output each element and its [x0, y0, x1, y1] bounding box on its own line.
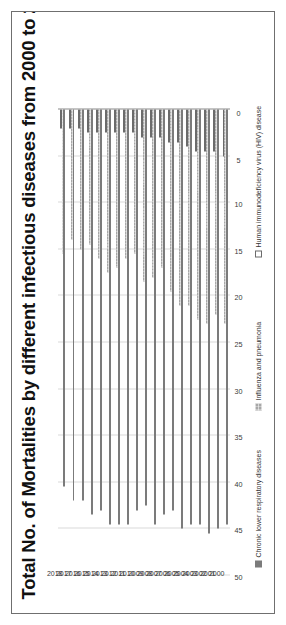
bar-2006-series-0: [172, 109, 174, 510]
bar-2014-series-0: [100, 109, 102, 510]
rotated-figure-wrapper: Total No. of Mortalities by different in…: [12, 12, 274, 613]
value-tick-30: 30: [235, 386, 243, 395]
bar-2018-series-0: [63, 109, 65, 486]
bar-group-2002: [203, 109, 212, 575]
bar-2017-series-0: [73, 109, 75, 500]
value-tick-20: 20: [235, 293, 243, 302]
value-tick-45: 45: [235, 526, 243, 535]
bar-group-2003: [194, 109, 203, 575]
bar-group-2011: [121, 109, 130, 575]
chart-canvas: Total No. of Mortalities by different in…: [12, 12, 274, 613]
category-axis: 2018201720162015201420132012201120102009…: [58, 577, 230, 611]
bar-group-2006: [167, 109, 176, 575]
legend-swatch-icon-1: [255, 403, 262, 410]
legend-swatch-icon-2: [255, 250, 262, 257]
bar-2004-series-0: [190, 109, 192, 524]
bar-group-2008: [149, 109, 158, 575]
value-tick-50: 50: [235, 573, 243, 582]
bar-group-2017: [67, 109, 76, 575]
plot-inner: [58, 109, 230, 575]
bar-group-2013: [103, 109, 112, 575]
bar-group-2000: [221, 109, 230, 575]
bar-group-2007: [158, 109, 167, 575]
bar-group-2001: [212, 109, 221, 575]
legend-item-1[interactable]: Influenza and pneumonia: [255, 321, 262, 410]
legend-label-0: Chronic lower respiratory diseases: [255, 450, 262, 557]
bar-group-2015: [85, 109, 94, 575]
bar-group-2009: [139, 109, 148, 575]
bar-2001-series-0: [217, 109, 219, 528]
value-tick-10: 10: [235, 200, 243, 209]
bar-2015-series-0: [91, 109, 93, 514]
bar-group-2014: [94, 109, 103, 575]
category-tick-2000: 2000: [209, 570, 225, 577]
page-title: Total No. of Mortalities by different in…: [18, 24, 40, 599]
plot-area: [58, 109, 230, 575]
bar-2010-series-0: [136, 109, 138, 510]
value-tick-25: 25: [235, 340, 243, 349]
bar-2005-series-0: [181, 109, 183, 528]
value-tick-5: 5: [237, 155, 241, 164]
bar-2000-series-0: [226, 109, 228, 524]
bar-group-2012: [112, 109, 121, 575]
chart-legend: Chronic lower respiratory diseasesInflue…: [255, 109, 271, 575]
bar-group-2005: [176, 109, 185, 575]
bar-2013-series-0: [109, 109, 111, 524]
bar-2011-series-0: [127, 109, 129, 524]
value-tick-15: 15: [235, 246, 243, 255]
bar-2016-series-0: [82, 109, 84, 500]
figure-border: Total No. of Mortalities by different in…: [11, 11, 275, 614]
legend-label-1: Influenza and pneumonia: [255, 321, 262, 400]
bar-group-2010: [130, 109, 139, 575]
figure-page: Total No. of Mortalities by different in…: [0, 0, 286, 625]
bar-2007-series-0: [163, 109, 165, 514]
legend-swatch-icon-0: [255, 560, 262, 567]
value-axis: 05101520253035404550: [232, 109, 254, 575]
value-tick-40: 40: [235, 479, 243, 488]
value-tick-0: 0: [237, 109, 241, 118]
bar-2009-series-0: [145, 109, 147, 505]
bar-group-2018: [58, 109, 67, 575]
value-tick-35: 35: [235, 433, 243, 442]
bar-2003-series-0: [199, 109, 201, 524]
legend-item-0[interactable]: Chronic lower respiratory diseases: [255, 450, 262, 567]
bar-2008-series-0: [154, 109, 156, 524]
legend-item-2[interactable]: Human immunodeficiency virus (HIV) disea…: [255, 105, 262, 257]
bar-2002-series-0: [208, 109, 210, 533]
bar-2012-series-0: [118, 109, 120, 524]
legend-label-2: Human immunodeficiency virus (HIV) disea…: [255, 105, 262, 247]
bar-group-2016: [76, 109, 85, 575]
bar-group-2004: [185, 109, 194, 575]
